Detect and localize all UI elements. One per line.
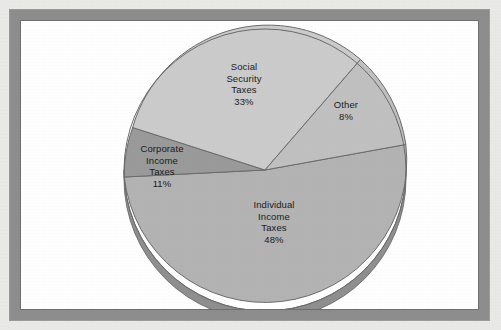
- chart-canvas: Social Security Taxes 33% Other 8% Corpo…: [20, 20, 479, 310]
- pie-chart: Social Security Taxes 33% Other 8% Corpo…: [21, 21, 478, 309]
- chart-frame-border: Social Security Taxes 33% Other 8% Corpo…: [9, 9, 490, 321]
- page-root: Social Security Taxes 33% Other 8% Corpo…: [0, 0, 501, 330]
- pie-chart-graphic: [21, 21, 479, 310]
